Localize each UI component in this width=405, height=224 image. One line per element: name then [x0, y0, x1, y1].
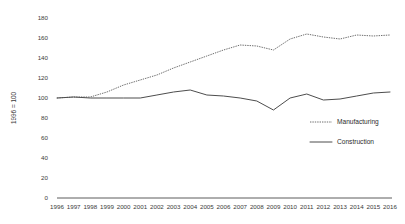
- x-axis-tick-label: 2003: [167, 203, 181, 210]
- y-axis-tick-label: 140: [38, 54, 49, 61]
- x-axis-tick-label: 2013: [333, 203, 347, 210]
- y-axis-tick-label: 100: [38, 94, 49, 101]
- x-axis-tick-label: 2007: [233, 203, 247, 210]
- y-axis-tick-labels: 020406080100120140160180: [38, 14, 49, 201]
- y-axis-tick-label: 20: [41, 174, 48, 181]
- x-axis-tick-label: 2016: [383, 203, 397, 210]
- x-axis-tick-label: 2001: [133, 203, 147, 210]
- chart-container: 1996 = 100 020406080100120140160180 1996…: [0, 0, 405, 224]
- x-axis-tick-label: 1999: [100, 203, 114, 210]
- x-axis-tick-label: 2004: [183, 203, 197, 210]
- chart-legend: ManufacturingConstruction: [310, 118, 379, 145]
- x-axis-tick-label: 2008: [250, 203, 264, 210]
- y-axis-tick-label: 160: [38, 34, 49, 41]
- y-axis-title-group: 1996 = 100: [10, 91, 17, 124]
- y-axis-title: 1996 = 100: [10, 91, 17, 124]
- series-group: [57, 34, 390, 110]
- legend-label-construction: Construction: [337, 138, 374, 145]
- legend-label-manufacturing: Manufacturing: [337, 118, 379, 126]
- y-axis-tick-label: 60: [41, 134, 48, 141]
- x-axis-tick-label: 1998: [83, 203, 97, 210]
- x-axis-tick-label: 1997: [67, 203, 81, 210]
- x-axis-tick-label: 2011: [300, 203, 314, 210]
- x-axis-tick-label: 2012: [317, 203, 331, 210]
- x-axis-tick-label: 2015: [366, 203, 380, 210]
- series-line-construction: [57, 90, 390, 110]
- x-axis-tick-labels: 1996199719981999200020012002200320042005…: [50, 203, 397, 210]
- x-axis-tick-label: 2006: [217, 203, 231, 210]
- y-axis-tick-label: 180: [38, 14, 49, 21]
- x-axis-tick-label: 1996: [50, 203, 64, 210]
- x-axis-tick-label: 2010: [283, 203, 297, 210]
- y-axis-tick-label: 40: [41, 154, 48, 161]
- line-chart: 1996 = 100 020406080100120140160180 1996…: [0, 0, 405, 224]
- series-line-manufacturing: [57, 34, 390, 98]
- x-axis-tick-label: 2002: [150, 203, 164, 210]
- x-axis-tick-label: 2005: [200, 203, 214, 210]
- y-axis-tick-label: 80: [41, 114, 48, 121]
- x-axis-tick-label: 2009: [267, 203, 281, 210]
- x-axis-tick-label: 2000: [117, 203, 131, 210]
- y-axis-tick-label: 0: [45, 194, 49, 201]
- y-axis-tick-label: 120: [38, 74, 49, 81]
- x-axis-tick-label: 2014: [350, 203, 364, 210]
